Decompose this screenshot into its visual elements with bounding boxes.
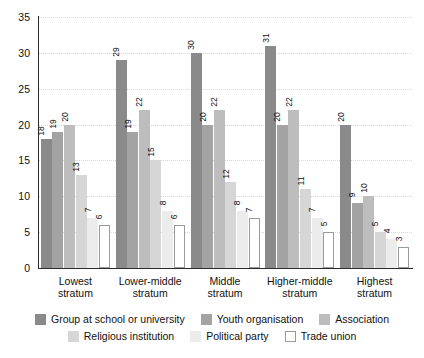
- y-axis-tick-labels: 05101520253035: [0, 17, 32, 268]
- x-axis-category-label: Higheststratum: [337, 275, 412, 299]
- bar-value-label: 12: [222, 169, 231, 178]
- bar: 11: [300, 189, 311, 268]
- y-axis-tick-label: 0: [0, 263, 30, 273]
- bar: 22: [139, 110, 150, 268]
- plot-area: 1819201376291922158630202212873120221175…: [38, 17, 412, 268]
- bar-value-label: 11: [297, 177, 306, 186]
- legend-item[interactable]: Political party: [190, 330, 268, 342]
- bar-group: 3020221287: [191, 17, 260, 268]
- category-label-line: Middle: [188, 275, 263, 287]
- legend-label: Association: [335, 313, 389, 325]
- bar-value-label: 22: [210, 98, 219, 107]
- bar: 12: [225, 182, 236, 268]
- category-label-line: Highest: [337, 275, 412, 287]
- y-axis-tick-label: 5: [0, 227, 30, 237]
- bar-value-label: 15: [147, 148, 156, 157]
- legend-label: Political party: [206, 330, 268, 342]
- bar: 15: [150, 160, 161, 268]
- bar: 20: [64, 125, 75, 268]
- bar-group: 20910543: [340, 17, 409, 268]
- legend-swatch-icon: [319, 314, 330, 325]
- bar-value-label: 30: [187, 40, 196, 49]
- bar: 4: [386, 239, 397, 268]
- bar-value-label: 6: [95, 215, 104, 220]
- x-axis-category-label: Loweststratum: [38, 275, 113, 299]
- bar-value-label: 20: [273, 112, 282, 121]
- category-label-line: stratum: [188, 287, 263, 299]
- category-label-line: stratum: [113, 287, 188, 299]
- legend-swatch-icon: [68, 331, 79, 342]
- bar-value-label: 10: [360, 184, 369, 193]
- bar-value-label: 5: [371, 222, 380, 227]
- legend-row-primary: Group at school or universityYouth organ…: [0, 313, 424, 325]
- bar-value-label: 22: [135, 98, 144, 107]
- category-label-line: stratum: [38, 287, 113, 299]
- bar-value-label: 7: [245, 207, 254, 212]
- legend-label: Trade union: [301, 330, 357, 342]
- legend-item[interactable]: Trade union: [285, 330, 357, 342]
- legend-label: Religious institution: [84, 330, 174, 342]
- bar: 20: [202, 125, 213, 268]
- y-axis-tick-label: 15: [0, 155, 30, 165]
- category-label-line: Lower-middle: [113, 275, 188, 287]
- bar-group: 1819201376: [41, 17, 110, 268]
- legend-swatch-icon: [201, 314, 212, 325]
- bar-value-label: 4: [383, 229, 392, 234]
- bar: 10: [363, 196, 374, 268]
- y-axis-line: [38, 16, 39, 269]
- bar-group: 2919221586: [116, 17, 185, 268]
- category-label-line: stratum: [262, 287, 337, 299]
- bar-value-label: 20: [337, 112, 346, 121]
- bar-value-label: 7: [308, 207, 317, 212]
- bar: 3: [398, 247, 409, 269]
- bar: 6: [174, 225, 185, 268]
- bar-value-label: 13: [72, 162, 81, 171]
- x-axis-line: [38, 268, 413, 269]
- x-axis-category-label: Lower-middlestratum: [113, 275, 188, 299]
- bar-value-label: 8: [233, 200, 242, 205]
- bar-value-label: 29: [112, 47, 121, 56]
- bar-value-label: 31: [262, 33, 271, 42]
- bar: 5: [375, 232, 386, 268]
- bar: 29: [116, 60, 127, 268]
- category-label-line: Lowest: [38, 275, 113, 287]
- chart-legend: Group at school or universityYouth organ…: [0, 313, 424, 347]
- bar: 7: [87, 218, 98, 268]
- bar-value-label: 8: [159, 200, 168, 205]
- bar: 6: [99, 225, 110, 268]
- y-axis-tick-label: 35: [0, 12, 30, 22]
- legend-swatch-icon: [285, 331, 296, 342]
- legend-swatch-icon: [190, 331, 201, 342]
- bar-value-label: 20: [199, 112, 208, 121]
- bar-value-label: 6: [170, 215, 179, 220]
- bar: 22: [288, 110, 299, 268]
- y-axis-tick-label: 10: [0, 191, 30, 201]
- x-axis-category-label: Higher-middlestratum: [262, 275, 337, 299]
- bar-group: 3120221175: [265, 17, 334, 268]
- x-axis-category-label: Middlestratum: [188, 275, 263, 299]
- legend-row-secondary: Religious institutionPolitical partyTrad…: [0, 330, 424, 342]
- bar: 5: [323, 232, 334, 268]
- bar-value-label: 19: [49, 119, 58, 128]
- bar: 8: [237, 211, 248, 268]
- bar-value-label: 22: [285, 98, 294, 107]
- bar: 13: [76, 175, 87, 268]
- legend-label: Youth organisation: [217, 313, 304, 325]
- legend-item[interactable]: Religious institution: [68, 330, 174, 342]
- bar-value-label: 7: [84, 207, 93, 212]
- bar-value-label: 19: [124, 119, 133, 128]
- bar-value-label: 3: [395, 236, 404, 241]
- legend-item[interactable]: Youth organisation: [201, 313, 304, 325]
- bar: 22: [214, 110, 225, 268]
- y-axis-tick-label: 25: [0, 84, 30, 94]
- legend-item[interactable]: Association: [319, 313, 389, 325]
- legend-item[interactable]: Group at school or university: [35, 313, 185, 325]
- legend-label: Group at school or university: [51, 313, 185, 325]
- legend-swatch-icon: [35, 314, 46, 325]
- bar-value-label: 20: [61, 112, 70, 121]
- bar: 7: [249, 218, 260, 268]
- bar: 31: [265, 46, 276, 268]
- bar: 19: [127, 132, 138, 268]
- category-label-line: stratum: [337, 287, 412, 299]
- bar: 9: [352, 203, 363, 268]
